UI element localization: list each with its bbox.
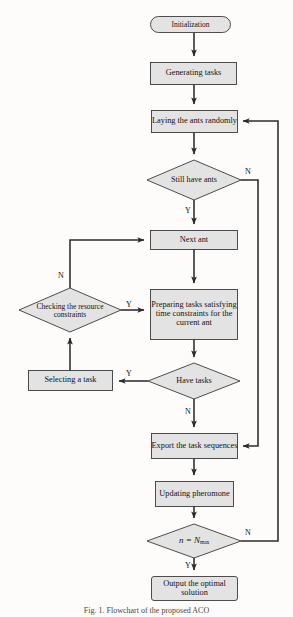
- node-n-equals-nmax-shape: [147, 524, 241, 558]
- node-selecting-task-shape: [29, 371, 113, 391]
- node-preparing-tasks-shape: [151, 290, 238, 340]
- node-generating-tasks-shape: [151, 63, 237, 85]
- branch-n-equals-nmax-no: N: [245, 528, 251, 537]
- node-updating-pheromone-shape: [156, 482, 234, 507]
- edge-still-have-ants-no-to-export: [241, 180, 258, 446]
- node-still-have-ants-shape: [147, 160, 241, 200]
- edge-nmax-no-to-laying: [241, 121, 278, 541]
- node-checking-resource-shape: [19, 288, 121, 332]
- branch-have-tasks-yes: Y: [126, 369, 132, 378]
- branch-still-have-ants-no: N: [245, 167, 251, 176]
- branch-have-tasks-no: N: [185, 407, 191, 416]
- branch-still-have-ants-yes: Y: [185, 206, 191, 215]
- edge-checking-no-to-next-ant: [70, 240, 144, 288]
- branch-checking-resource-no: N: [58, 271, 64, 280]
- node-have-tasks-shape: [148, 363, 240, 399]
- branch-checking-resource-yes: Y: [126, 300, 132, 309]
- node-next-ant-shape: [151, 231, 238, 250]
- node-laying-ants-shape: [152, 111, 238, 133]
- flowchart-figure: Initialization Generating tasks Laying t…: [0, 0, 293, 617]
- flowchart-canvas: [0, 0, 293, 617]
- node-output-optimal-shape: [152, 577, 238, 601]
- node-export-sequences-shape: [152, 434, 238, 459]
- figure-caption: Fig. 1. Flowchart of the proposed ACO: [0, 606, 293, 615]
- node-initialization-shape: [151, 17, 231, 33]
- branch-n-equals-nmax-yes: Y: [185, 561, 191, 570]
